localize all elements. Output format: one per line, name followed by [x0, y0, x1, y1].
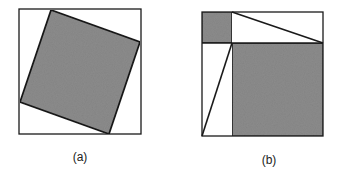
- panel-b-label: (b): [254, 153, 284, 167]
- panel-b-small-shaded-square: [202, 12, 232, 43]
- pythagorean-proof-diagram: [0, 0, 340, 174]
- panel-a: [19, 9, 141, 134]
- panel-b: [202, 12, 323, 136]
- panel-a-label: (a): [65, 150, 95, 164]
- panel-b-large-shaded-square: [232, 43, 323, 136]
